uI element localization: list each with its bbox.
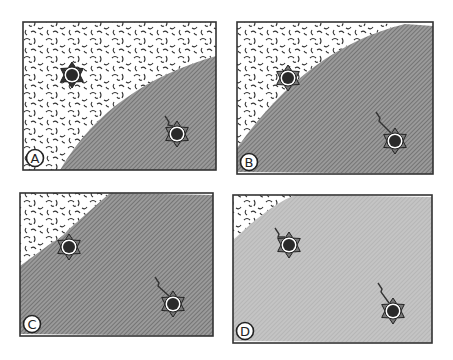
four-panel-diagram: ABCD: [0, 0, 453, 360]
shaded-region: [233, 195, 432, 343]
panel-label-b: B: [241, 154, 258, 171]
panel-label-text: D: [240, 324, 250, 339]
panel-d: D: [233, 195, 432, 343]
panel-label-text: B: [245, 155, 254, 170]
panel-label-a: A: [27, 150, 44, 167]
panel-label-c: C: [24, 316, 41, 333]
panel-c: C: [20, 193, 213, 336]
panel-label-d: D: [237, 323, 254, 340]
panel-label-text: A: [31, 151, 40, 166]
panel-b: B: [237, 22, 433, 174]
panel-a: A: [23, 22, 216, 170]
panel-label-text: C: [27, 317, 36, 332]
